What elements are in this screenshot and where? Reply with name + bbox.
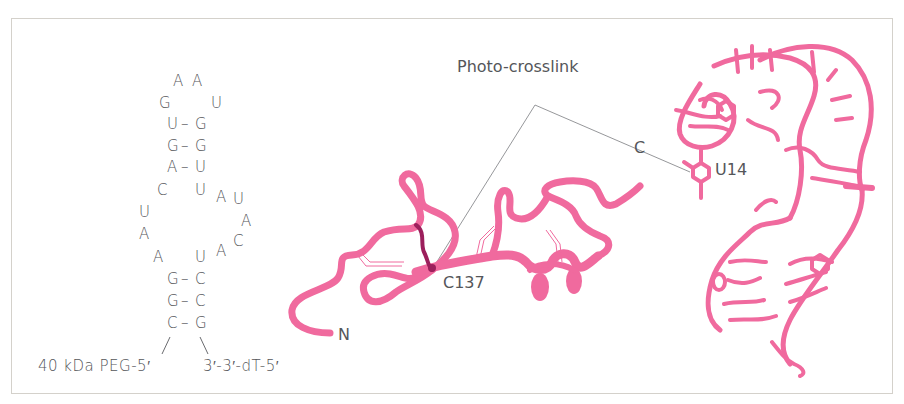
terminal-connectors: [162, 337, 208, 354]
rna-tertiary-model: [676, 46, 872, 376]
structure-artwork: [0, 0, 904, 404]
crosslink-segment: [416, 225, 432, 270]
u14-residue-label: U14: [715, 162, 747, 178]
c-terminus-label: C: [634, 140, 645, 156]
photo-crosslink-label: Photo-crosslink: [457, 59, 579, 75]
c137-residue-label: C137: [443, 275, 485, 291]
protein-ribbon: [292, 174, 640, 333]
crosslink-site-c137: [428, 264, 436, 272]
n-terminus-label: N: [338, 327, 350, 343]
crosslink-leader-lines: [433, 105, 690, 268]
